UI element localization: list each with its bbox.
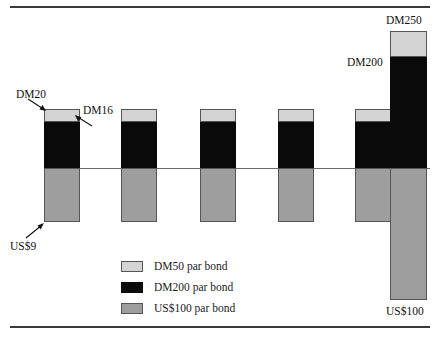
- bar-group-4: [278, 109, 314, 222]
- bar-2-segment-dm50: [121, 109, 157, 122]
- bar-5-segment-dm50: [355, 109, 391, 122]
- annotation-dm20-arrow: [28, 99, 50, 113]
- bar-4-segment-dm200: [278, 122, 314, 168]
- legend-swatch-dm200: [121, 282, 143, 293]
- annotation-us100-label: US$100: [386, 305, 424, 317]
- legend-label-dm50: DM50 par bond: [154, 259, 227, 273]
- legend-label-us100: US$100 par bond: [154, 301, 235, 315]
- annotation-us9-label: US$9: [10, 240, 36, 252]
- bar-5-segment-us100: [355, 168, 391, 222]
- bar-2-segment-us100: [121, 168, 157, 222]
- bar-4-segment-dm50: [278, 109, 314, 122]
- bar-group-2: [121, 109, 157, 222]
- annotation-dm250-label: DM250: [386, 14, 422, 26]
- bar-group-3: [200, 109, 236, 222]
- top-rule: [10, 6, 430, 8]
- bar-group-6: [390, 31, 427, 300]
- bar-6-segment-dm200: [390, 57, 427, 168]
- bar-6-segment-us100: [390, 168, 427, 300]
- annotation-us9-arrow: [24, 222, 48, 240]
- bar-3-segment-dm50: [200, 109, 236, 122]
- annotation-dm200-label: DM200: [347, 56, 383, 68]
- chart-figure: DM20 DM16 US$9 DM200 DM250 US$100 DM50 p…: [0, 0, 438, 339]
- bar-2-segment-dm200: [121, 122, 157, 168]
- legend-label-dm200: DM200 par bond: [154, 280, 233, 294]
- bar-4-segment-us100: [278, 168, 314, 222]
- bar-3-segment-us100: [200, 168, 236, 222]
- bar-1-segment-us100: [44, 168, 80, 222]
- annotation-dm16-arrow: [72, 115, 94, 129]
- bottom-rule: [10, 326, 430, 328]
- bar-3-segment-dm200: [200, 122, 236, 168]
- bar-group-5: [355, 109, 391, 222]
- legend-swatch-us100: [121, 303, 143, 314]
- bar-6-segment-dm50: [390, 31, 427, 57]
- bar-5-segment-dm200: [355, 122, 391, 168]
- legend-swatch-dm50: [121, 261, 143, 272]
